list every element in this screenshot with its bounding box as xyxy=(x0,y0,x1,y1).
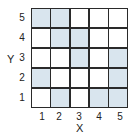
grid-cell-4-3 xyxy=(90,49,108,67)
grid-cell-5-2 xyxy=(109,69,127,87)
grid-cell-2-3 xyxy=(51,49,69,67)
y-axis-label: Y xyxy=(7,54,14,65)
grid-cell-2-1 xyxy=(51,89,69,107)
x-tick-5: 5 xyxy=(115,112,125,122)
y-tick-4: 4 xyxy=(18,33,26,43)
grid-cell-2-5 xyxy=(51,9,69,27)
grid-cell-3-4 xyxy=(71,29,89,47)
x-tick-1: 1 xyxy=(37,112,47,122)
grid-cell-5-4 xyxy=(109,29,127,47)
grid-cell-1-3 xyxy=(32,49,50,67)
grid-cell-3-1 xyxy=(71,89,89,107)
grid-cell-2-4 xyxy=(51,29,69,47)
grid-cell-4-1 xyxy=(90,89,108,107)
grid-cell-1-2 xyxy=(32,69,50,87)
y-tick-5: 5 xyxy=(18,13,26,23)
grid-cell-5-1 xyxy=(109,89,127,107)
y-tick-3: 3 xyxy=(18,53,26,63)
grid-cell-3-5 xyxy=(71,9,89,27)
grid xyxy=(31,8,128,108)
grid-cell-4-4 xyxy=(90,29,108,47)
grid-cell-3-2 xyxy=(71,69,89,87)
x-tick-2: 2 xyxy=(54,112,64,122)
y-tick-2: 2 xyxy=(18,73,26,83)
grid-cell-5-3 xyxy=(109,49,127,67)
grid-cell-4-2 xyxy=(90,69,108,87)
grid-cell-4-5 xyxy=(90,9,108,27)
grid-cell-1-4 xyxy=(32,29,50,47)
grid-cell-1-1 xyxy=(32,89,50,107)
grid-cell-2-2 xyxy=(51,69,69,87)
y-tick-1: 1 xyxy=(18,93,26,103)
grid-cell-5-5 xyxy=(109,9,127,27)
x-axis-label: X xyxy=(76,123,83,134)
x-tick-4: 4 xyxy=(94,112,104,122)
grid-cell-3-3 xyxy=(71,49,89,67)
x-tick-3: 3 xyxy=(74,112,84,122)
grid-cell-1-5 xyxy=(32,9,50,27)
